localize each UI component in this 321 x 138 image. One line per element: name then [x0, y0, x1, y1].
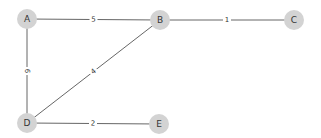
node-label: B [157, 15, 163, 25]
edge-A-D: 6 [23, 19, 31, 123]
node-B: B [150, 10, 170, 30]
node-A: A [17, 9, 37, 29]
edge-A-B: 5 [27, 15, 160, 23]
node-label: C [291, 15, 297, 25]
edge-weight-label: 5 [91, 15, 96, 23]
node-C: C [284, 10, 304, 30]
edge-weight-label: 2 [91, 119, 96, 127]
edge-weight-label: 1 [225, 16, 229, 24]
edges-layer: 51642 [23, 15, 294, 127]
node-E: E [149, 114, 169, 134]
node-D: D [17, 113, 37, 133]
node-label: E [156, 119, 162, 129]
edge-D-E: 2 [27, 119, 159, 127]
node-label: A [24, 14, 31, 24]
edge-B-C: 1 [160, 16, 294, 24]
edge-weight-label: 6 [23, 69, 31, 74]
node-label: D [24, 118, 31, 128]
weighted-graph-diagram: 51642 ABCDE [0, 0, 321, 138]
edge-B-D: 4 [27, 20, 160, 123]
nodes-layer: ABCDE [17, 9, 304, 134]
